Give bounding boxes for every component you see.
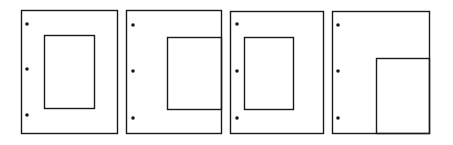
binder-hole-icon (131, 69, 135, 73)
binder-hole-icon (235, 69, 239, 73)
page-layout-diagram (0, 0, 453, 145)
binder-hole-icon (131, 23, 135, 27)
binder-hole-icon (336, 23, 340, 27)
binder-hole-icon (25, 113, 29, 117)
panel-3-centered-frame (231, 12, 324, 134)
binder-hole-icon (336, 116, 340, 120)
page-outline (22, 11, 118, 134)
page-outline (333, 12, 430, 134)
binder-hole-icon (131, 116, 135, 120)
panel-4-frame-bottom-right-corner (333, 12, 430, 134)
panel-2-frame-bleeds-right (127, 11, 222, 134)
panel-1-centered-frame (22, 11, 118, 134)
binder-hole-icon (25, 67, 29, 71)
binder-hole-icon (336, 69, 340, 73)
binder-hole-icon (25, 22, 29, 26)
binder-hole-icon (235, 22, 239, 26)
page-outline (127, 11, 222, 134)
diagram-canvas (0, 0, 453, 145)
binder-hole-icon (235, 116, 239, 120)
